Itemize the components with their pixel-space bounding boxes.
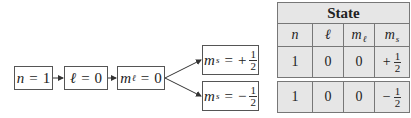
cell-n: 1: [278, 82, 313, 113]
ms-minus-num: 1: [249, 85, 257, 97]
ml-sub: ℓ: [132, 73, 136, 83]
header-ms: ms: [375, 24, 410, 47]
n-var: n: [17, 70, 25, 87]
state-title: State: [278, 3, 410, 24]
cell-ms: −12: [375, 82, 410, 113]
ms-plus-sub: s: [216, 55, 220, 65]
cell-n: 1: [278, 47, 313, 78]
header-ml-sub: ℓ: [363, 34, 367, 44]
n-val: 1: [43, 70, 51, 87]
table-row: 1 0 0 +12: [278, 47, 410, 78]
cell-ms-num: 1: [394, 86, 402, 98]
cell-l: 0: [313, 47, 344, 78]
ml-eq: =: [141, 70, 149, 87]
ms-plus-eq: =: [224, 52, 232, 69]
header-row: n ℓ mℓ ms: [278, 24, 410, 47]
ml-val: 0: [154, 70, 162, 87]
ms-plus-den: 2: [250, 61, 256, 72]
ml-box: mℓ = 0: [117, 66, 165, 90]
ms-plus-var: m: [204, 52, 215, 69]
cell-ms-den: 2: [395, 63, 401, 74]
ms-plus-box: ms = + 1 2: [202, 45, 259, 75]
n-eq: =: [29, 70, 37, 87]
l-var: ℓ: [70, 70, 76, 87]
header-l: ℓ: [313, 24, 344, 47]
state-table: State n ℓ mℓ ms 1 0 0 +12: [277, 2, 410, 78]
ms-minus-den: 2: [250, 97, 256, 108]
ms-minus-sign: −: [238, 88, 246, 105]
cell-ml: 0: [344, 47, 375, 78]
arrow-ml-to-ms-plus: [165, 60, 201, 78]
cell-ms-den: 2: [395, 98, 401, 109]
cell-ms-fraction: 12: [394, 51, 402, 74]
l-box: ℓ = 0: [64, 66, 108, 90]
cell-ms-fraction: 12: [394, 86, 402, 109]
ms-minus-sub: s: [216, 91, 220, 101]
n-box: n = 1: [14, 66, 53, 90]
header-ml-var: m: [352, 27, 362, 42]
ms-minus-var: m: [204, 88, 215, 105]
table-row: 1 0 0 −12: [278, 82, 410, 113]
cell-ms: +12: [375, 47, 410, 78]
cell-ms-num: 1: [394, 51, 402, 63]
ms-plus-sign: +: [238, 52, 246, 69]
cell-ml: 0: [344, 82, 375, 113]
ms-minus-fraction: 1 2: [249, 85, 257, 108]
l-val: 0: [95, 70, 103, 87]
header-n: n: [278, 24, 313, 47]
cell-l: 0: [313, 82, 344, 113]
header-ml: mℓ: [344, 24, 375, 47]
arrow-ml-to-ms-minus: [165, 78, 201, 96]
l-eq: =: [81, 70, 89, 87]
ms-plus-fraction: 1 2: [249, 49, 257, 72]
ml-var: m: [120, 70, 131, 87]
cell-ms-sign: −: [383, 88, 391, 103]
ms-minus-eq: =: [224, 88, 232, 105]
header-ms-var: m: [385, 27, 395, 42]
cell-ms-sign: +: [383, 53, 391, 68]
ms-minus-box: ms = − 1 2: [202, 81, 259, 111]
ms-plus-num: 1: [249, 49, 257, 61]
state-table-row2: 1 0 0 −12: [277, 81, 410, 113]
header-ms-sub: s: [396, 34, 400, 44]
